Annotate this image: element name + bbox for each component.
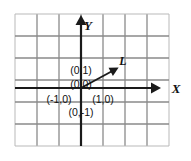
x-axis-label: X [171, 81, 181, 96]
coordinate-plane-figure: X Y L (0,1)(0,0)(-1,0)(1,0)(0,-1) [0, 0, 191, 161]
point-label-0-1: (0,1) [70, 64, 92, 76]
point-label-neg1-0: (-1,0) [46, 93, 71, 105]
ray-l-label: L [118, 54, 126, 68]
point-label-1-0: (1,0) [92, 93, 114, 105]
point-label-0-neg1: (0,-1) [68, 106, 93, 118]
point-label-0-0: (0,0) [70, 78, 92, 90]
coordinate-plane-svg: X Y L (0,1)(0,0)(-1,0)(1,0)(0,-1) [0, 0, 191, 161]
y-axis-label: Y [84, 18, 93, 33]
